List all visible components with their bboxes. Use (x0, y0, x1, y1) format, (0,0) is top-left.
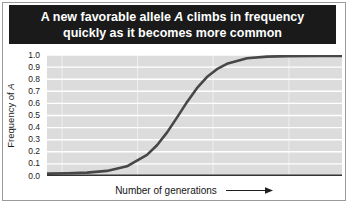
y-axis-tick-labels: 1.00.90.80.70.60.50.40.30.20.10.0 (3, 55, 44, 176)
y-tick-label: 0.6 (3, 98, 44, 109)
y-tick-label: 0.2 (3, 146, 44, 157)
y-tick-label: 0.7 (3, 86, 44, 97)
x-axis-title: Number of generations (115, 185, 217, 196)
x-axis-label-row: Number of generations (47, 182, 342, 198)
right-arrow-icon (226, 186, 274, 195)
y-tick-label: 0.0 (3, 171, 44, 182)
title-line-2: quickly as it becomes more common (63, 25, 282, 41)
y-tick-label: 0.8 (3, 74, 44, 85)
y-tick-label: 0.3 (3, 134, 44, 145)
y-tick-label: 0.9 (3, 62, 44, 73)
allele-frequency-line-chart (47, 55, 342, 176)
y-tick-label: 0.4 (3, 122, 44, 133)
y-tick-label: 0.5 (3, 110, 44, 121)
title-banner: A new favorable allele A climbs in frequ… (9, 5, 336, 44)
y-tick-label: 1.0 (3, 50, 44, 61)
y-tick-label: 0.1 (3, 158, 44, 169)
plot-area (47, 55, 342, 176)
title-line-1: A new favorable allele A climbs in frequ… (41, 9, 305, 25)
figure-frame: A new favorable allele A climbs in frequ… (2, 2, 346, 201)
